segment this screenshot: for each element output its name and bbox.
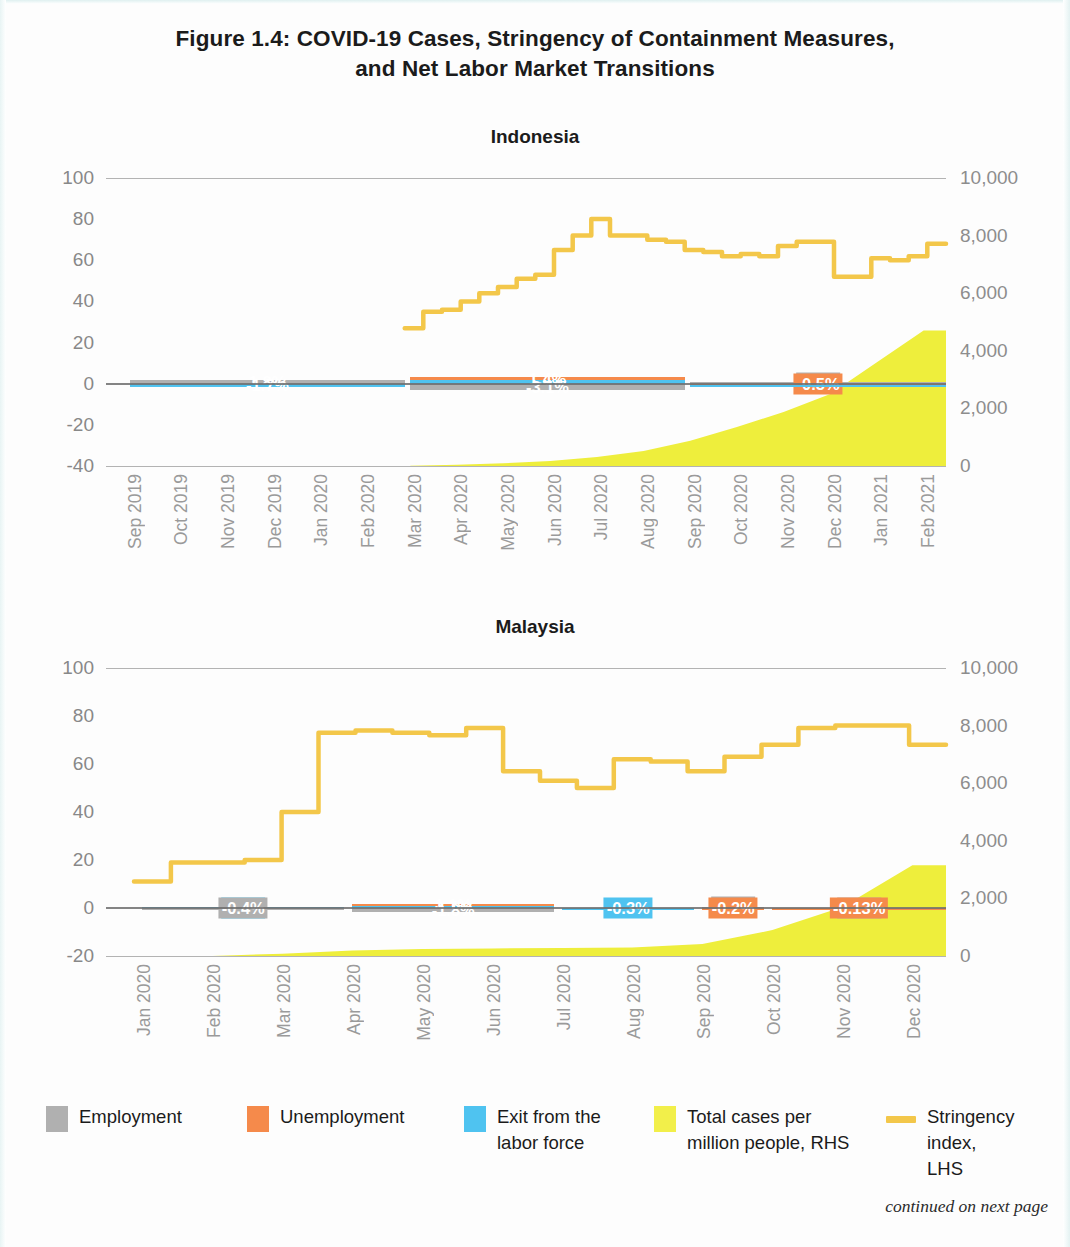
exit-labor-force-swatch-icon xyxy=(464,1106,486,1132)
y2-axis-tick-label: 10,000 xyxy=(960,657,1018,679)
figure-title-line2: and Net Labor Market Transitions xyxy=(0,54,1070,84)
x-axis-tick-label: Sep 2020 xyxy=(694,964,715,1039)
y-axis-tick-label: 20 xyxy=(73,332,94,354)
continued-footnote: continued on next page xyxy=(885,1196,1048,1217)
y-axis-tick-label: 40 xyxy=(73,290,94,312)
x-axis-tick-label: Mar 2020 xyxy=(274,964,295,1038)
x-axis-tick-label: May 2020 xyxy=(498,474,519,551)
page-edge-top xyxy=(0,0,1070,4)
x-axis-tick-label: Nov 2020 xyxy=(834,964,855,1039)
x-axis-tick-label: Sep 2020 xyxy=(685,474,706,549)
legend-label-exit-line1: Exit from the xyxy=(497,1104,601,1130)
chart-indonesia: 100806040200-20-4010,0008,0006,0004,0002… xyxy=(106,178,946,466)
x-axis-tick-label: Jan 2020 xyxy=(134,964,155,1036)
y2-axis-tick-label: 4,000 xyxy=(960,830,1008,852)
total-cases-swatch-icon xyxy=(654,1106,676,1132)
y-axis-tick-label: 60 xyxy=(73,753,94,775)
y2-axis-tick-label: 6,000 xyxy=(960,772,1008,794)
figure-page: Figure 1.4: COVID-19 Cases, Stringency o… xyxy=(0,0,1070,1247)
y-axis-tick-label: 20 xyxy=(73,849,94,871)
panel-title-malaysia: Malaysia xyxy=(0,616,1070,638)
x-axis-tick-label: Feb 2020 xyxy=(358,474,379,548)
y-axis-tick-label: 80 xyxy=(73,705,94,727)
y-axis-tick-label: 80 xyxy=(73,208,94,230)
legend: Employment Unemployment Exit from the la… xyxy=(46,1104,1046,1174)
legend-item-exit-labor-force: Exit from the labor force xyxy=(464,1104,601,1156)
x-axis-tick-label: Nov 2019 xyxy=(218,474,239,549)
x-axis-tick-label: Jan 2021 xyxy=(871,474,892,546)
x-axis-tick-label: Aug 2020 xyxy=(638,474,659,549)
legend-item-employment: Employment xyxy=(46,1104,182,1132)
x-axis-tick-label: Jun 2020 xyxy=(545,474,566,546)
y2-axis-tick-label: 8,000 xyxy=(960,225,1008,247)
legend-label-stringency-line1: Stringency index, xyxy=(927,1104,1046,1156)
stringency-line-icon xyxy=(886,1116,916,1123)
y2-axis-tick-label: 0 xyxy=(960,945,971,967)
x-axis-tick-label: May 2020 xyxy=(414,964,435,1041)
x-axis-tick-label: Jun 2020 xyxy=(484,964,505,1036)
employment-swatch-icon xyxy=(46,1106,68,1132)
x-axis-tick-label: Oct 2019 xyxy=(171,474,192,545)
x-axis-tick-label: Jan 2020 xyxy=(311,474,332,546)
panel-title-indonesia: Indonesia xyxy=(0,126,1070,148)
legend-label-stringency: Stringency index, LHS xyxy=(927,1104,1046,1182)
legend-item-stringency: Stringency index, LHS xyxy=(886,1104,1046,1182)
legend-label-exit: Exit from the labor force xyxy=(497,1104,601,1156)
legend-label-cases-line2: million people, RHS xyxy=(687,1130,849,1156)
legend-label-cases-line1: Total cases per xyxy=(687,1104,849,1130)
y-axis-tick-label: -20 xyxy=(67,945,94,967)
x-axis-tick-label: Nov 2020 xyxy=(778,474,799,549)
unemployment-swatch-icon xyxy=(247,1106,269,1132)
y-axis-tick-label: -40 xyxy=(67,455,94,477)
x-axis-tick-label: Dec 2020 xyxy=(825,474,846,549)
y-axis-tick-label: 0 xyxy=(83,897,94,919)
legend-label-employment: Employment xyxy=(79,1104,182,1130)
x-axis-tick-label: Feb 2020 xyxy=(204,964,225,1038)
x-axis-tick-label: Jul 2020 xyxy=(591,474,612,540)
figure-title-line1: Figure 1.4: COVID-19 Cases, Stringency o… xyxy=(176,26,895,51)
legend-item-total-cases: Total cases per million people, RHS xyxy=(654,1104,849,1156)
x-axis-tick-label: Oct 2020 xyxy=(731,474,752,545)
legend-label-unemployment: Unemployment xyxy=(280,1104,404,1130)
legend-label-stringency-line2: LHS xyxy=(927,1156,1046,1182)
y2-axis-tick-label: 2,000 xyxy=(960,887,1008,909)
figure-title: Figure 1.4: COVID-19 Cases, Stringency o… xyxy=(0,24,1070,84)
stringency-path xyxy=(405,219,946,328)
x-axis-tick-label: Apr 2020 xyxy=(451,474,472,545)
y-axis-tick-label: 40 xyxy=(73,801,94,823)
y-axis-tick-label: 100 xyxy=(62,657,94,679)
legend-label-cases: Total cases per million people, RHS xyxy=(687,1104,849,1156)
y2-axis-tick-label: 4,000 xyxy=(960,340,1008,362)
stringency-line xyxy=(106,178,946,466)
x-axis-tick-label: Mar 2020 xyxy=(405,474,426,548)
y2-axis-tick-label: 2,000 xyxy=(960,397,1008,419)
y-axis-tick-label: 0 xyxy=(83,373,94,395)
x-axis-tick-label: Dec 2020 xyxy=(904,964,925,1039)
stringency-line xyxy=(106,668,946,956)
chart-malaysia: 100806040200-2010,0008,0006,0004,0002,00… xyxy=(106,668,946,956)
y2-axis-tick-label: 6,000 xyxy=(960,282,1008,304)
x-axis-tick-label: Oct 2020 xyxy=(764,964,785,1035)
y-axis-tick-label: 100 xyxy=(62,167,94,189)
gridline xyxy=(106,956,946,957)
x-axis-tick-label: Apr 2020 xyxy=(344,964,365,1035)
x-axis-tick-label: Feb 2021 xyxy=(918,474,939,548)
y2-axis-tick-label: 10,000 xyxy=(960,167,1018,189)
gridline xyxy=(106,466,946,467)
legend-label-exit-line2: labor force xyxy=(497,1130,601,1156)
x-axis-tick-label: Jul 2020 xyxy=(554,964,575,1030)
y-axis-tick-label: 60 xyxy=(73,249,94,271)
y-axis-tick-label: -20 xyxy=(67,414,94,436)
y2-axis-tick-label: 8,000 xyxy=(960,715,1008,737)
legend-item-unemployment: Unemployment xyxy=(247,1104,404,1132)
x-axis-tick-label: Dec 2019 xyxy=(265,474,286,549)
y2-axis-tick-label: 0 xyxy=(960,455,971,477)
x-axis-tick-label: Sep 2019 xyxy=(125,474,146,549)
x-axis-tick-label: Aug 2020 xyxy=(624,964,645,1039)
stringency-path xyxy=(134,726,946,882)
